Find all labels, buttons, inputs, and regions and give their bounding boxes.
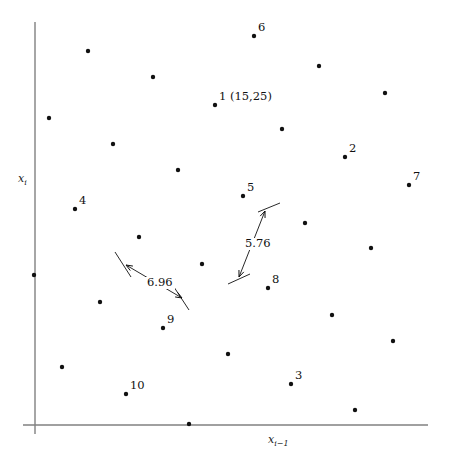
x-axis-label: xi−1 <box>268 433 289 448</box>
point-label-p10: 10 <box>130 380 145 392</box>
scatter-plot-figure: 6.965.761 (15,25)2345678910 xi xi−1 <box>0 0 451 463</box>
point-label-p3: 3 <box>295 370 302 382</box>
dim-696-value-label: 6.96 <box>145 277 175 289</box>
point-label-p9: 9 <box>167 314 174 326</box>
point-labels-layer: 6.965.761 (15,25)2345678910 <box>0 0 451 463</box>
dim-576-value-label: 5.76 <box>243 238 273 250</box>
y-axis-label: xi <box>18 172 27 187</box>
point-label-p2: 2 <box>349 143 356 155</box>
point-label-p6: 6 <box>258 22 265 34</box>
point-label-p4: 4 <box>79 195 86 207</box>
point-label-p5: 5 <box>247 182 254 194</box>
x-axis-label-sub: i−1 <box>274 439 288 448</box>
point-label-p8: 8 <box>272 274 279 286</box>
y-axis-label-sub: i <box>24 178 27 187</box>
point-label-p1: 1 (15,25) <box>219 91 272 103</box>
point-label-p7: 7 <box>413 171 420 183</box>
